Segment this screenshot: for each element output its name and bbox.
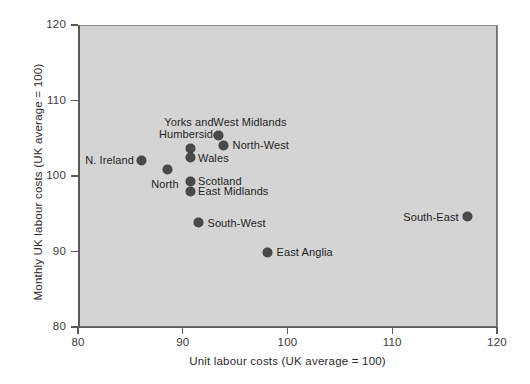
- data-point-marker: [186, 144, 195, 153]
- axis-spine-left: [78, 25, 80, 328]
- data-point-marker: [186, 153, 195, 162]
- x-tick-label-80: 80: [58, 336, 98, 348]
- x-tick-110: [392, 327, 393, 334]
- data-point-label: North-West: [233, 139, 289, 151]
- scatter-chart-figure: 8090100110120 8090100110120 N. IrelandNo…: [0, 0, 530, 384]
- x-tick-80: [77, 327, 78, 334]
- data-point-marker: [163, 165, 172, 174]
- data-point-marker: [137, 156, 146, 165]
- data-point-label: Wales: [198, 152, 229, 164]
- data-point-marker: [263, 248, 272, 257]
- data-point-marker: [219, 141, 228, 150]
- data-point-label: South-West: [207, 217, 265, 229]
- x-axis-title: Unit labour costs (UK average = 100): [78, 355, 497, 367]
- data-point-label: East Anglia: [277, 246, 333, 258]
- x-tick-120: [496, 327, 497, 334]
- y-tick-label-120: 120: [26, 18, 66, 30]
- y-tick-90: [71, 251, 78, 252]
- plot-area: [78, 25, 497, 327]
- data-point-marker: [186, 187, 195, 196]
- axis-spine-top: [78, 25, 498, 26]
- y-tick-100: [71, 175, 78, 176]
- data-point-label: West Midlands: [213, 116, 286, 128]
- x-tick-label-90: 90: [163, 336, 203, 348]
- x-tick-label-110: 110: [372, 336, 412, 348]
- x-tick-label-120: 120: [477, 336, 517, 348]
- data-point-label: N. Ireland: [85, 154, 134, 166]
- axis-spine-right: [497, 25, 498, 328]
- y-axis-title: Monthly UK labour costs (UK average = 10…: [32, 31, 44, 333]
- x-tick-90: [182, 327, 183, 334]
- data-point-label: South-East: [403, 211, 458, 223]
- x-tick-100: [287, 327, 288, 334]
- data-point-marker: [186, 177, 195, 186]
- data-point-label: East Midlands: [198, 185, 268, 197]
- y-tick-110: [71, 100, 78, 101]
- y-tick-120: [71, 24, 78, 25]
- x-tick-label-100: 100: [268, 336, 308, 348]
